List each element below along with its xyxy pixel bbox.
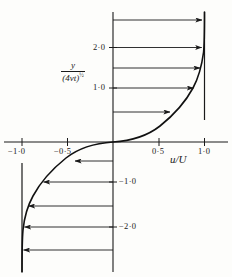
- plot-canvas: [0, 0, 232, 277]
- denominator-open: (4: [62, 73, 70, 83]
- y-tick-label-neg1: −1·0: [119, 176, 136, 186]
- y-axis-label: y (4νt)½: [52, 61, 94, 84]
- velocity-profile-figure: −1·0 −0·5 0·5 1·0 2·0 1·0 −1·0 −2·0 u/U …: [0, 0, 232, 277]
- y-tick-label-pos1: 1·0: [93, 82, 105, 92]
- x-tick-label-neg0p5: −0·5: [54, 146, 71, 156]
- denominator-exponent: ½: [79, 72, 84, 78]
- y-tick-label-neg2: −2·0: [119, 221, 136, 231]
- x-tick-label-neg1: −1·0: [8, 146, 25, 156]
- y-tick-label-pos2: 2·0: [93, 42, 105, 52]
- y-axis-label-denominator: (4νt)½: [61, 72, 85, 83]
- y-axis-label-numerator: y: [61, 61, 85, 70]
- y-axis-label-fraction: y (4νt)½: [61, 61, 85, 84]
- x-axis-label: u/U: [170, 153, 187, 165]
- x-tick-label-pos0p5: 0·5: [152, 146, 164, 156]
- x-tick-label-pos1: 1·0: [198, 146, 210, 156]
